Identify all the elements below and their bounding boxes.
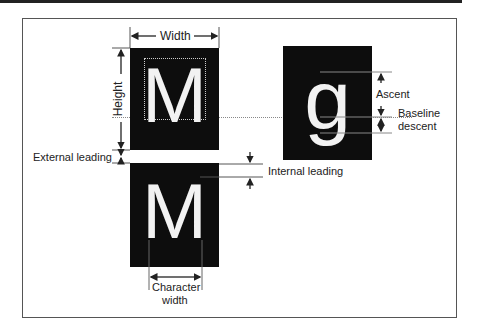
width-label: Width — [160, 29, 191, 43]
internal-leading-label: Internal leading — [268, 165, 343, 177]
character-width-label-line2: width — [162, 294, 188, 306]
descent-label: descent — [398, 120, 437, 132]
ascent-label: Ascent — [376, 88, 410, 100]
baseline-label: Baseline — [398, 107, 440, 119]
dimension-lines — [0, 0, 478, 334]
external-leading-label: External leading — [33, 151, 112, 163]
character-width-label-line1: Character — [152, 281, 200, 293]
height-label: Height — [111, 82, 125, 117]
